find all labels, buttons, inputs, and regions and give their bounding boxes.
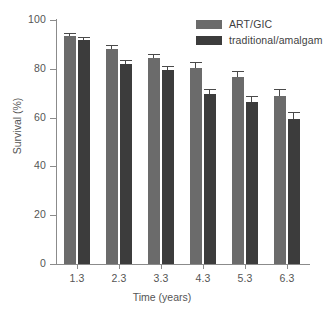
x-tick-label: 1.3: [57, 272, 97, 284]
x-tick: [203, 264, 204, 269]
x-tick: [77, 264, 78, 269]
bar-traditional-amalgam-2.3: [120, 64, 132, 264]
chart-legend: ART/GICtraditional/amalgam: [196, 18, 323, 50]
bar-art-gic-2.3: [106, 49, 118, 264]
error-bar-cap: [274, 89, 286, 90]
legend-item: ART/GIC: [196, 18, 323, 30]
x-axis-title: Time (years): [0, 291, 324, 303]
plot-area: [56, 20, 308, 264]
bar-traditional-amalgam-3.3: [162, 70, 174, 264]
x-tick-label: 6.3: [267, 272, 307, 284]
bar-art-gic-1.3: [64, 36, 76, 264]
error-bar-cap: [288, 112, 300, 113]
error-bar: [288, 112, 300, 119]
bar-traditional-amalgam-6.3: [288, 119, 300, 264]
bar-art-gic-4.3: [190, 68, 202, 264]
bar-traditional-amalgam-5.3: [246, 102, 258, 264]
x-tick: [287, 264, 288, 269]
survival-bar-chart: 020406080100 1.32.33.34.35.36.3 Time (ye…: [0, 0, 324, 311]
legend-item: traditional/amalgam: [196, 34, 323, 46]
bar-traditional-amalgam-4.3: [204, 94, 216, 264]
bar-art-gic-3.3: [148, 58, 160, 264]
y-tick-label: 100: [6, 13, 46, 25]
x-tick: [245, 264, 246, 269]
x-tick-label: 2.3: [99, 272, 139, 284]
error-bar-cap: [64, 33, 76, 34]
x-tick: [119, 264, 120, 269]
legend-label: traditional/amalgam: [229, 34, 323, 46]
error-bar-cap: [148, 54, 160, 55]
error-bar-cap: [246, 96, 258, 97]
x-axis-line: [50, 264, 310, 265]
error-bar-cap: [120, 60, 132, 61]
error-bar-stem: [293, 112, 294, 119]
error-bar-stem: [279, 89, 280, 96]
y-axis-title: Survival (%): [11, 71, 23, 181]
legend-swatch: [196, 20, 222, 29]
x-tick-label: 4.3: [183, 272, 223, 284]
error-bar-cap: [78, 37, 90, 38]
error-bar-cap: [190, 62, 202, 63]
x-tick-label: 3.3: [141, 272, 181, 284]
x-tick: [161, 264, 162, 269]
bar-art-gic-6.3: [274, 96, 286, 264]
error-bar-cap: [232, 71, 244, 72]
error-bar: [274, 89, 286, 96]
error-bar-cap: [204, 89, 216, 90]
error-bar-cap: [106, 45, 118, 46]
bar-art-gic-5.3: [232, 77, 244, 264]
y-tick-label: 0: [6, 257, 46, 269]
y-tick: [50, 264, 56, 265]
legend-label: ART/GIC: [229, 18, 272, 30]
x-tick-label: 5.3: [225, 272, 265, 284]
bar-traditional-amalgam-1.3: [78, 40, 90, 264]
y-tick-label: 20: [6, 208, 46, 220]
error-bar-cap: [162, 66, 174, 67]
legend-swatch: [196, 36, 222, 45]
